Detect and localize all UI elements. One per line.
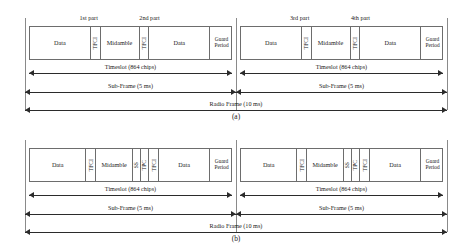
part-label: 1st part: [79, 12, 97, 23]
slot-cell-label: TFCI: [303, 37, 309, 49]
arrowhead-right-icon: [442, 211, 447, 217]
dimension-bar: [236, 214, 447, 215]
arrowhead-left-icon: [236, 211, 241, 217]
timeslot-dimension-a-2: Timeslot (864 chips): [240, 64, 443, 77]
slot-cell-data: Data: [241, 149, 297, 181]
panel-caption-a: (a): [0, 112, 472, 121]
slot-cell-guard-period: GuardPeriod: [210, 149, 233, 181]
slot-cell-label: Midamble: [312, 162, 337, 169]
slot-cell-label: Midamble: [318, 40, 343, 47]
slot-cell-label: TFCI: [151, 159, 157, 171]
slot-cell-label: Data: [263, 162, 275, 169]
dimension-bar: [29, 73, 232, 74]
slot-cell-label: Data: [384, 40, 396, 47]
arrowhead-right-icon: [438, 70, 443, 76]
timeslot-dimension-label: Timeslot (864 chips): [29, 63, 232, 71]
timeslot-dimension-b-2: Timeslot (864 chips): [240, 186, 443, 199]
subframe-dimension-label: Sub-Frame (5 ms): [25, 204, 236, 212]
slot-cell-tfci: TFCI: [149, 149, 159, 181]
timeslot-box-a-1: DataTFCIMidambleTFCIDataGuardPeriod: [29, 26, 232, 60]
slot-cell-data: Data: [30, 27, 91, 59]
guide-rail-left: [25, 140, 26, 232]
slot-cell-label: TFCI: [299, 159, 305, 171]
slot-cell-tpc: TPC: [141, 149, 150, 181]
slot-cell-label: Data: [54, 40, 66, 47]
slot-cell-label: GuardPeriod: [426, 159, 440, 171]
slot-cell-label: Midamble: [107, 40, 132, 47]
slot-cell-label: TFCI: [362, 159, 368, 171]
arrowhead-left-icon: [25, 89, 30, 95]
slot-cell-tfci: TFCI: [302, 27, 312, 59]
timeslot-dimension-label: Timeslot (864 chips): [240, 63, 443, 71]
subframe-dimension-label: Sub-Frame (5 ms): [236, 82, 447, 90]
dimension-bar: [25, 110, 447, 111]
slot-cell-label: TFCI: [92, 37, 98, 49]
arrowhead-left-icon: [236, 89, 241, 95]
dimension-bar: [240, 195, 443, 196]
slot-cell-label: GuardPeriod: [215, 159, 229, 171]
dimension-bar: [236, 92, 447, 93]
slot-cell-guard-period: GuardPeriod: [421, 27, 444, 59]
part-label: 3rd part: [290, 12, 309, 23]
arrowhead-right-icon: [438, 192, 443, 198]
slot-cell-data: Data: [149, 27, 210, 59]
timeslot-dimension-b-1: Timeslot (864 chips): [29, 186, 232, 199]
slot-cell-guard-period: GuardPeriod: [210, 27, 233, 59]
dimension-bar: [240, 73, 443, 74]
guide-rail-right: [447, 140, 448, 232]
part-label: 2nd part: [139, 12, 159, 23]
slot-cell-ss: SS: [344, 149, 352, 181]
timeslot-dimension-label: Timeslot (864 chips): [240, 185, 443, 193]
subframe-dimension-b-2: Sub-Frame (5 ms): [236, 205, 447, 218]
slot-cell-label: Data: [52, 162, 64, 169]
subframe-dimension-b-1: Sub-Frame (5 ms): [25, 205, 236, 218]
slot-cell-midamble: Midamble: [96, 149, 133, 181]
guide-rail-right: [447, 18, 448, 110]
slot-cell-label: GuardPeriod: [426, 37, 440, 49]
guide-rail-mid: [236, 18, 237, 110]
slot-cell-guard-period: GuardPeriod: [421, 149, 444, 181]
slot-cell-midamble: Midamble: [101, 27, 140, 59]
slot-cell-tpc: TPC: [352, 149, 361, 181]
timeslot-dimension-label: Timeslot (864 chips): [29, 185, 232, 193]
slot-cell-data: Data: [360, 27, 421, 59]
arrowhead-right-icon: [442, 89, 447, 95]
timeslot-dimension-a-1: Timeslot (864 chips): [29, 64, 232, 77]
guide-rail-mid: [236, 140, 237, 232]
subframe-dimension-a-2: Sub-Frame (5 ms): [236, 83, 447, 96]
slot-cell-label: SS: [133, 162, 139, 168]
slot-cell-tfci: TFCI: [297, 149, 307, 181]
slot-cell-data: Data: [241, 27, 302, 59]
slot-cell-label: TFCI: [141, 37, 147, 49]
subframe-dimension-label: Sub-Frame (5 ms): [25, 82, 236, 90]
slot-cell-tfci: TFCI: [86, 149, 96, 181]
subframe-dimension-a-1: Sub-Frame (5 ms): [25, 83, 236, 96]
slot-cell-label: Midamble: [101, 162, 126, 169]
dimension-bar: [25, 232, 447, 233]
guide-rail-left: [25, 18, 26, 110]
diagram-panel-a: DataTFCIMidambleTFCIDataGuardPeriod1st p…: [0, 0, 472, 122]
subframe-dimension-label: Sub-Frame (5 ms): [236, 204, 447, 212]
slot-cell-label: Data: [178, 162, 190, 169]
slot-cell-midamble: Midamble: [307, 149, 344, 181]
slot-cell-tfci: TFCI: [351, 27, 361, 59]
arrowhead-left-icon: [29, 70, 34, 76]
part-label: 4th part: [351, 12, 370, 23]
dimension-bar: [29, 195, 232, 196]
slot-cell-ss: SS: [133, 149, 141, 181]
arrowhead-left-icon: [25, 211, 30, 217]
slot-cell-label: TPC: [352, 160, 358, 170]
frame-structure-figure: DataTFCIMidambleTFCIDataGuardPeriod1st p…: [0, 0, 472, 245]
slot-cell-label: Data: [389, 162, 401, 169]
arrowhead-right-icon: [227, 192, 232, 198]
slot-cell-tfci: TFCI: [91, 27, 101, 59]
slot-cell-midamble: Midamble: [312, 27, 351, 59]
dimension-bar: [25, 214, 236, 215]
radioframe-dimension-label: Radio Frame (10 ms): [25, 222, 447, 230]
timeslot-box-b-1: DataTFCIMidambleSSTPCTFCIDataGuardPeriod: [29, 148, 232, 182]
slot-cell-data: Data: [370, 149, 421, 181]
panel-caption-b: (b): [0, 234, 472, 243]
arrowhead-right-icon: [227, 70, 232, 76]
slot-cell-label: SS: [344, 162, 350, 168]
timeslot-box-b-2: DataTFCIMidambleSSTPCTFCIDataGuardPeriod: [240, 148, 443, 182]
